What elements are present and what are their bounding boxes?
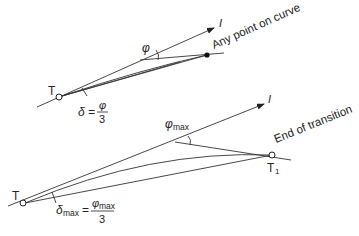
end-label-sub: 1: [275, 167, 280, 176]
bottom-chord-line: [25, 155, 272, 203]
bottom-start-point-marker: [20, 200, 26, 206]
bottom-end-label: T 1: [267, 161, 280, 176]
dmax-sub: max: [63, 208, 80, 218]
bottom-tangent-label: I: [268, 93, 271, 105]
top-lower-line: [62, 62, 180, 96]
dmax-num-sub: max: [99, 201, 116, 211]
top-curve-point-marker: [204, 52, 209, 57]
top-figure: T I φ Any point on curve δ = φ 3: [37, 1, 302, 125]
top-tangent-label: I: [219, 17, 222, 29]
top-phi-label: φ: [142, 41, 150, 55]
top-delta-denominator: 3: [99, 113, 105, 125]
dmax-equals: =: [82, 203, 89, 217]
phimax-sub: max: [173, 122, 190, 132]
bottom-start-label: T: [12, 189, 20, 203]
top-start-label: T: [48, 84, 56, 98]
bottom-end-point-marker: [269, 152, 275, 158]
top-delta-lhs: δ =: [78, 105, 95, 119]
bottom-deflection-formula: δ max = φ max 3: [56, 197, 116, 225]
dmax-denominator: 3: [99, 213, 105, 225]
top-point-tangent-line: [140, 53, 224, 60]
bottom-figure: T I φ max End of transition T 1 δ max = …: [8, 93, 354, 225]
bottom-phimax-label: φ max: [165, 117, 190, 132]
dmax-base: δ: [56, 203, 63, 217]
top-deflection-formula: δ = φ 3: [78, 99, 108, 125]
diagram-canvas: T I φ Any point on curve δ = φ 3 T I φ m…: [0, 0, 359, 236]
end-label-base: T: [267, 161, 275, 175]
phimax-base: φ: [165, 117, 173, 131]
top-start-point-marker: [56, 94, 62, 100]
bottom-end-annotation: End of transition: [272, 103, 354, 145]
top-point-annotation: Any point on curve: [210, 1, 302, 51]
top-delta-numerator: φ: [99, 99, 106, 111]
